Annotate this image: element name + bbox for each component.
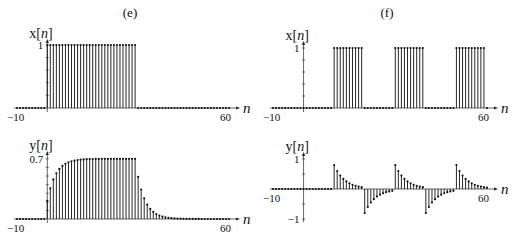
stem-marker xyxy=(116,44,118,46)
x-tick-label-neg10: −10 xyxy=(7,111,25,123)
stem-marker xyxy=(104,44,106,46)
stem-marker xyxy=(37,107,39,109)
stem-marker xyxy=(104,158,106,160)
stem-marker xyxy=(394,164,396,166)
stem-marker xyxy=(299,188,301,190)
stem-marker xyxy=(173,107,175,109)
stem-marker xyxy=(186,107,188,109)
stem-marker xyxy=(290,107,292,109)
stem-marker xyxy=(137,176,139,178)
stem-marker xyxy=(34,218,36,220)
stem-marker xyxy=(46,44,48,46)
stem-marker xyxy=(321,107,323,109)
x-tick-label-neg10: −10 xyxy=(7,222,25,234)
stem-marker xyxy=(416,185,418,187)
x-axis-label: n xyxy=(501,100,509,116)
stem-marker xyxy=(373,198,375,200)
stem-marker xyxy=(134,44,136,46)
stem-marker xyxy=(455,47,457,49)
stem-marker xyxy=(101,44,103,46)
stem-marker xyxy=(34,107,36,109)
stem-marker xyxy=(471,47,473,49)
stem-marker xyxy=(333,164,335,166)
stem-marker xyxy=(137,107,139,109)
stem-marker xyxy=(25,218,27,220)
x-axis-label: n xyxy=(501,181,509,197)
stem-marker xyxy=(158,214,160,216)
stem-marker xyxy=(324,188,326,190)
stem-marker xyxy=(446,107,448,109)
stem-marker xyxy=(31,218,33,220)
stem-marker xyxy=(431,107,433,109)
stem-marker xyxy=(468,47,470,49)
stem-marker xyxy=(354,47,356,49)
stem-marker xyxy=(458,170,460,172)
stem-marker xyxy=(155,107,157,109)
stem-marker xyxy=(403,47,405,49)
stem-marker xyxy=(161,107,163,109)
stem-marker xyxy=(419,47,421,49)
stem-marker xyxy=(486,187,488,189)
stem-marker xyxy=(483,186,485,188)
stem-marker xyxy=(195,107,197,109)
stem-marker xyxy=(173,217,175,219)
stem-marker xyxy=(376,195,378,197)
stem-marker xyxy=(306,107,308,109)
stem-marker xyxy=(228,218,230,220)
stem-marker xyxy=(170,217,172,219)
stem-marker xyxy=(228,107,230,109)
stem-marker xyxy=(354,185,356,187)
stem-marker xyxy=(49,187,51,189)
stem-marker xyxy=(336,47,338,49)
stem-marker xyxy=(391,190,393,192)
stem-marker xyxy=(367,206,369,208)
stem-marker xyxy=(336,170,338,172)
stem-marker xyxy=(422,47,424,49)
y-tick-label: 1 xyxy=(38,39,44,51)
y-axis-label: y[n] xyxy=(286,139,309,154)
stem-marker xyxy=(293,188,295,190)
stem-marker xyxy=(272,107,274,109)
stem-marker xyxy=(189,218,191,220)
stem-marker xyxy=(440,107,442,109)
stem-marker xyxy=(358,185,360,187)
stem-marker xyxy=(358,47,360,49)
stem-marker xyxy=(98,158,100,160)
chart-f-y: y[n]n−10601−1 xyxy=(263,139,509,225)
stem-marker xyxy=(16,107,18,109)
stem-marker xyxy=(379,107,381,109)
stem-marker xyxy=(128,158,130,160)
stem-marker xyxy=(324,107,326,109)
stem-marker xyxy=(89,158,91,160)
stem-marker xyxy=(40,218,42,220)
stem-marker xyxy=(318,107,320,109)
stem-marker xyxy=(225,218,227,220)
stem-marker xyxy=(182,218,184,220)
stem-marker xyxy=(333,47,335,49)
stem-marker xyxy=(213,107,215,109)
stem-marker xyxy=(64,44,66,46)
stem-marker xyxy=(70,160,72,162)
stem-marker xyxy=(198,107,200,109)
stem-marker xyxy=(465,47,467,49)
stem-marker xyxy=(434,107,436,109)
stem-marker xyxy=(149,107,151,109)
stem-marker xyxy=(385,191,387,193)
stem-marker xyxy=(43,107,45,109)
stem-marker xyxy=(22,218,24,220)
stem-marker xyxy=(437,195,439,197)
stem-marker xyxy=(164,107,166,109)
stem-marker xyxy=(46,200,48,202)
stem-marker xyxy=(290,188,292,190)
stem-marker xyxy=(367,107,369,109)
stem-marker xyxy=(449,190,451,192)
stem-marker xyxy=(461,47,463,49)
stem-marker xyxy=(327,188,329,190)
stem-marker xyxy=(140,188,142,190)
stem-marker xyxy=(376,107,378,109)
stem-marker xyxy=(284,188,286,190)
stem-marker xyxy=(80,44,82,46)
stem-marker xyxy=(413,47,415,49)
stem-marker xyxy=(80,159,82,161)
x-tick-label-neg10: −10 xyxy=(263,192,281,204)
